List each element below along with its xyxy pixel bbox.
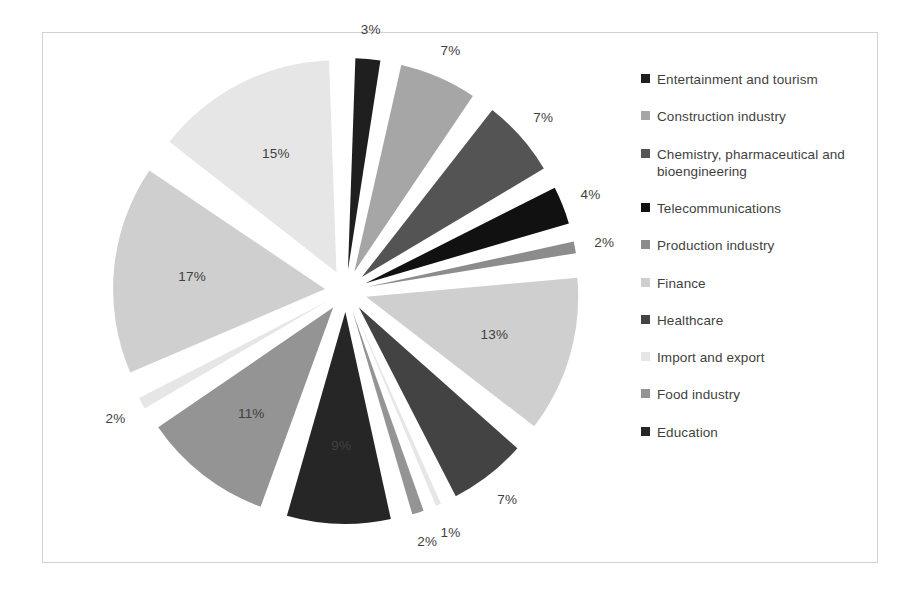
legend-item-label: Food industry <box>657 386 740 403</box>
legend-swatch-icon <box>641 111 650 120</box>
legend-item-label: Finance <box>657 275 706 292</box>
pie-slice-label: 3% <box>361 22 381 37</box>
legend-item[interactable]: Import and export <box>641 349 873 366</box>
legend-item-label: Education <box>657 424 718 441</box>
legend-swatch-icon <box>641 389 650 398</box>
pie-slice-label: 2% <box>417 534 437 549</box>
pie-slice-label: 15% <box>262 146 290 161</box>
pie-slice-label: 13% <box>481 327 509 342</box>
pie-slice-label: 4% <box>581 187 601 202</box>
legend-item[interactable]: Finance <box>641 275 873 292</box>
legend-item-label: Chemistry, pharmaceutical and bioenginee… <box>657 146 873 181</box>
legend-item-label: Construction industry <box>657 108 786 125</box>
pie-chart-area: 3%7%7%4%2%13%7%1%2%9%11%2%17%15% <box>43 33 683 564</box>
legend-swatch-icon <box>641 149 650 158</box>
legend-item-label: Healthcare <box>657 312 723 329</box>
legend-swatch-icon <box>641 278 650 287</box>
pie-slice-label: 7% <box>533 110 553 125</box>
pie-slice-label: 7% <box>497 491 517 506</box>
legend-item[interactable]: Chemistry, pharmaceutical and bioenginee… <box>641 146 873 181</box>
chart-plot-frame: 3%7%7%4%2%13%7%1%2%9%11%2%17%15% Enterta… <box>42 32 878 563</box>
legend-item[interactable]: Telecommunications <box>641 200 873 217</box>
legend-item-label: Telecommunications <box>657 200 781 217</box>
legend-swatch-icon <box>641 203 650 212</box>
chart-legend: Entertainment and tourismConstruction in… <box>641 71 873 461</box>
chart-root: 3%7%7%4%2%13%7%1%2%9%11%2%17%15% Enterta… <box>0 0 920 590</box>
pie-slice-label: 2% <box>594 234 614 249</box>
legend-item-label: Entertainment and tourism <box>657 71 818 88</box>
legend-swatch-icon <box>641 315 650 324</box>
legend-item-label: Import and export <box>657 349 765 366</box>
legend-swatch-icon <box>641 74 650 83</box>
legend-item[interactable]: Production industry <box>641 237 873 254</box>
pie-slice-label: 9% <box>331 438 351 453</box>
pie-slice-label: 2% <box>106 410 126 425</box>
pie-slice-label: 7% <box>440 42 460 57</box>
legend-swatch-icon <box>641 240 650 249</box>
legend-item[interactable]: Food industry <box>641 386 873 403</box>
legend-swatch-icon <box>641 427 650 436</box>
legend-swatch-icon <box>641 352 650 361</box>
legend-item[interactable]: Entertainment and tourism <box>641 71 873 88</box>
legend-item[interactable]: Education <box>641 424 873 441</box>
legend-item[interactable]: Construction industry <box>641 108 873 125</box>
legend-item-label: Production industry <box>657 237 774 254</box>
pie-chart-svg <box>43 33 683 564</box>
pie-slice-label: 1% <box>440 525 460 540</box>
pie-slice-label: 11% <box>238 406 265 421</box>
legend-item[interactable]: Healthcare <box>641 312 873 329</box>
pie-slice-label: 17% <box>178 269 206 284</box>
